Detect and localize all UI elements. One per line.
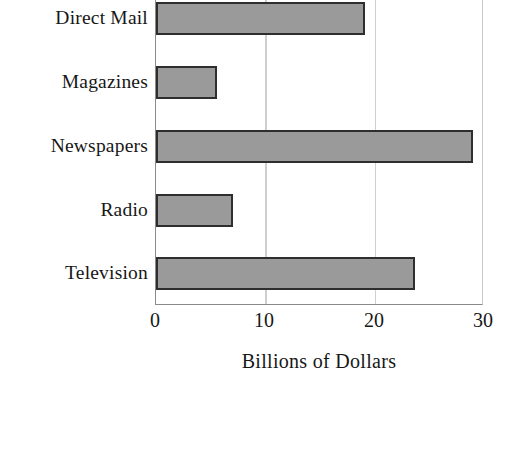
tick-label-20: 20: [364, 307, 384, 333]
tick-label-0: 0: [150, 307, 160, 333]
category-label-magazines: Magazines: [7, 71, 155, 93]
tick-label-30: 30: [473, 307, 493, 333]
bar-radio[interactable]: [156, 194, 233, 227]
bar-newspapers[interactable]: [156, 130, 473, 163]
tick-label-10: 10: [254, 307, 274, 333]
x-axis-tick-labels: 0 10 20 30: [0, 307, 519, 337]
bar-magazines[interactable]: [156, 66, 217, 99]
category-label-television: Television: [7, 262, 155, 284]
plot-area: [155, 0, 483, 305]
category-label-direct-mail: Direct Mail: [7, 7, 155, 29]
bar-direct-mail[interactable]: [156, 2, 365, 35]
x-axis-title: Billions of Dollars: [155, 348, 483, 374]
category-label-radio: Radio: [7, 199, 155, 221]
category-axis-labels: Direct Mail Magazines Newspapers Radio T…: [0, 0, 155, 305]
blank-footer-area: [0, 385, 519, 471]
category-label-newspapers: Newspapers: [7, 135, 155, 157]
bar-chart-figure: Direct Mail Magazines Newspapers Radio T…: [0, 0, 519, 471]
bar-television[interactable]: [156, 257, 415, 290]
